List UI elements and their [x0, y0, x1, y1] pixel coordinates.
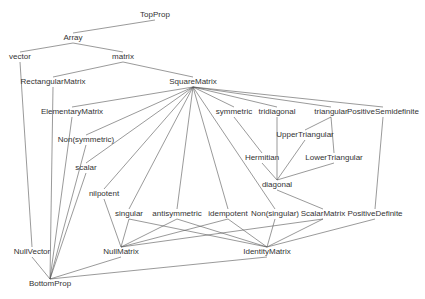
edge-TopProp-Array [73, 20, 155, 33]
node-positivedefinite: PositiveDefinite [347, 210, 402, 218]
node-uppertriangular: UpperTriangular [276, 131, 334, 139]
edge-triangular-UpperTriangular [305, 117, 331, 130]
edge-ScalarMatrix-IdentityMatrix [267, 219, 323, 247]
edge-SquareMatrix-idempotent [193, 87, 228, 209]
edge-SquareMatrix-scalar [86, 87, 193, 163]
type-lattice-diagram: TopPropArrayvectormatrixRectangularMatri… [0, 0, 425, 299]
edge-SquareMatrix-nilpotent [104, 87, 193, 189]
edge-Array-vector [20, 43, 73, 52]
edge-UpperTriangular-diagonal [277, 140, 305, 180]
edge-Hermitian-diagonal [262, 163, 277, 180]
edge-vector-NullVector [20, 62, 32, 247]
edge-PositiveDefinite-IdentityMatrix [267, 219, 375, 247]
edge-scalar-BottomProp [50, 173, 86, 279]
node-idempotent: idempotent [208, 210, 248, 218]
edge-SquareMatrix-tridiagonal [193, 87, 277, 107]
edge-SquareMatrix-Non(singular) [193, 87, 275, 209]
node-nilpotent: nilpotent [89, 190, 119, 198]
node-vector: vector [9, 53, 31, 61]
node-bottomprop: BottomProp [29, 280, 71, 288]
node-array: Array [63, 34, 82, 42]
edge-PositiveSemidefinite-PositiveDefinite [375, 117, 383, 209]
node-topprop: TopProp [140, 11, 170, 19]
node-symmetric: symmetric [216, 108, 252, 116]
edge-antisymmetric-IdentityMatrix [177, 219, 267, 247]
edge-symmetric-Hermitian [234, 117, 262, 153]
edge-LowerTriangular-diagonal [277, 163, 334, 180]
node-scalar: scalar [75, 164, 96, 172]
edge-SquareMatrix-antisymmetric [177, 87, 193, 209]
node-nonsymmetric: Non(symmetric) [58, 136, 114, 144]
node-tridiagonal: tridiagonal [259, 108, 296, 116]
node-nullmatrix: NullMatrix [103, 248, 139, 256]
edge-singular-NullMatrix [121, 219, 129, 247]
edge-layer [0, 0, 425, 299]
node-hermitian: Hermitian [245, 154, 279, 162]
edge-diagonal-ScalarMatrix [277, 190, 323, 209]
edge-Non(singular)-IdentityMatrix [267, 219, 275, 247]
node-rectangularmatrix: RectangularMatrix [21, 78, 86, 86]
node-diagonal: diagonal [262, 181, 292, 189]
edge-Array-matrix [73, 43, 123, 52]
edge-nilpotent-NullMatrix [104, 199, 121, 247]
node-antisymmetric: antisymmetric [152, 210, 201, 218]
edge-SquareMatrix-PositiveSemidefinite [193, 87, 383, 107]
node-scalarmatrix: ScalarMatrix [301, 210, 345, 218]
node-squarematrix: SquareMatrix [169, 78, 217, 86]
edge-matrix-SquareMatrix [123, 62, 193, 77]
node-singular: singular [115, 210, 143, 218]
node-matrix: matrix [112, 53, 134, 61]
edge-NullVector-BottomProp [32, 257, 50, 279]
node-triangular: triangular [314, 108, 347, 116]
edge-SquareMatrix-singular [129, 87, 193, 209]
edge-SquareMatrix-ElementaryMatrix [72, 87, 193, 107]
edge-matrix-RectangularMatrix [53, 62, 123, 77]
node-lowertriangular: LowerTriangular [305, 154, 363, 162]
node-identitymatrix: IdentityMatrix [243, 248, 291, 256]
node-positivesemidefinite: PositiveSemidefinite [347, 108, 419, 116]
node-elementarymatrix: ElementaryMatrix [41, 108, 103, 116]
node-nonsingular: Non(singular) [251, 210, 299, 218]
edge-IdentityMatrix-BottomProp [50, 257, 267, 279]
node-nullvector: NullVector [14, 248, 50, 256]
edge-idempotent-NullMatrix [121, 219, 228, 247]
